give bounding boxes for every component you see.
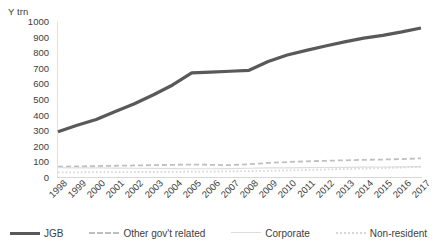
series-lines	[57, 21, 422, 177]
plot-area	[57, 21, 422, 177]
line-chart: Y trn 10009008007006005004003002001000 1…	[0, 0, 437, 251]
legend-line-icon	[89, 228, 119, 238]
y-axis-tick-label: 700	[0, 62, 52, 73]
chart-legend: JGBOther gov't relatedCorporateNon-resid…	[0, 222, 437, 244]
legend-item-label: JGB	[44, 228, 63, 239]
series-line	[58, 158, 421, 166]
y-axis-tick-label: 500	[0, 94, 52, 105]
series-line	[58, 28, 421, 132]
y-axis-tick-label: 200	[0, 140, 52, 151]
legend-item[interactable]: Other gov't related	[89, 228, 205, 239]
y-axis-tick-label: 800	[0, 47, 52, 58]
y-axis-tick-label: 100	[0, 156, 52, 167]
y-axis-tick-label: 900	[0, 31, 52, 42]
y-axis-tick-label: 600	[0, 78, 52, 89]
legend-line-icon	[336, 228, 366, 238]
legend-item-label: Other gov't related	[123, 228, 205, 239]
y-axis-tick-labels: 10009008007006005004003002001000	[0, 21, 52, 177]
legend-line-icon	[231, 228, 261, 238]
legend-item[interactable]: Non-resident	[336, 228, 427, 239]
y-axis-tick-label: 0	[0, 172, 52, 183]
legend-item-label: Non-resident	[370, 228, 427, 239]
x-axis-tick-labels: 1998199920002001200220032004200520062007…	[57, 178, 422, 214]
legend-item-label: Corporate	[265, 228, 309, 239]
y-axis-tick-label: 300	[0, 125, 52, 136]
y-axis-tick-label: 400	[0, 109, 52, 120]
legend-item[interactable]: JGB	[10, 228, 63, 239]
legend-line-icon	[10, 228, 40, 238]
legend-item[interactable]: Corporate	[231, 228, 309, 239]
y-axis-tick-label: 1000	[0, 16, 52, 27]
